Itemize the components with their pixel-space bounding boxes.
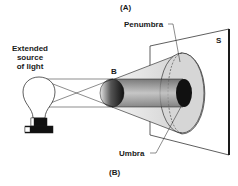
diagram-graphic xyxy=(0,0,238,186)
screen-label: S xyxy=(216,36,221,45)
umbra-spot xyxy=(176,79,192,107)
light-bulb-icon xyxy=(23,77,55,133)
bottom-label: (B) xyxy=(109,168,120,177)
top-label: (A) xyxy=(120,3,131,12)
umbra-label: Umbra xyxy=(119,149,144,158)
shadow-diagram: (A) Extended source of light B S Penumbr… xyxy=(0,0,238,186)
source-label: Extended source of light xyxy=(8,44,52,71)
source-label-line-3: of light xyxy=(8,62,52,71)
penumbra-label: Penumbra xyxy=(124,20,163,29)
opaque-object xyxy=(100,79,124,107)
source-label-line-1: Extended xyxy=(8,44,52,53)
object-label: B xyxy=(111,67,117,76)
source-label-line-2: source xyxy=(8,53,52,62)
